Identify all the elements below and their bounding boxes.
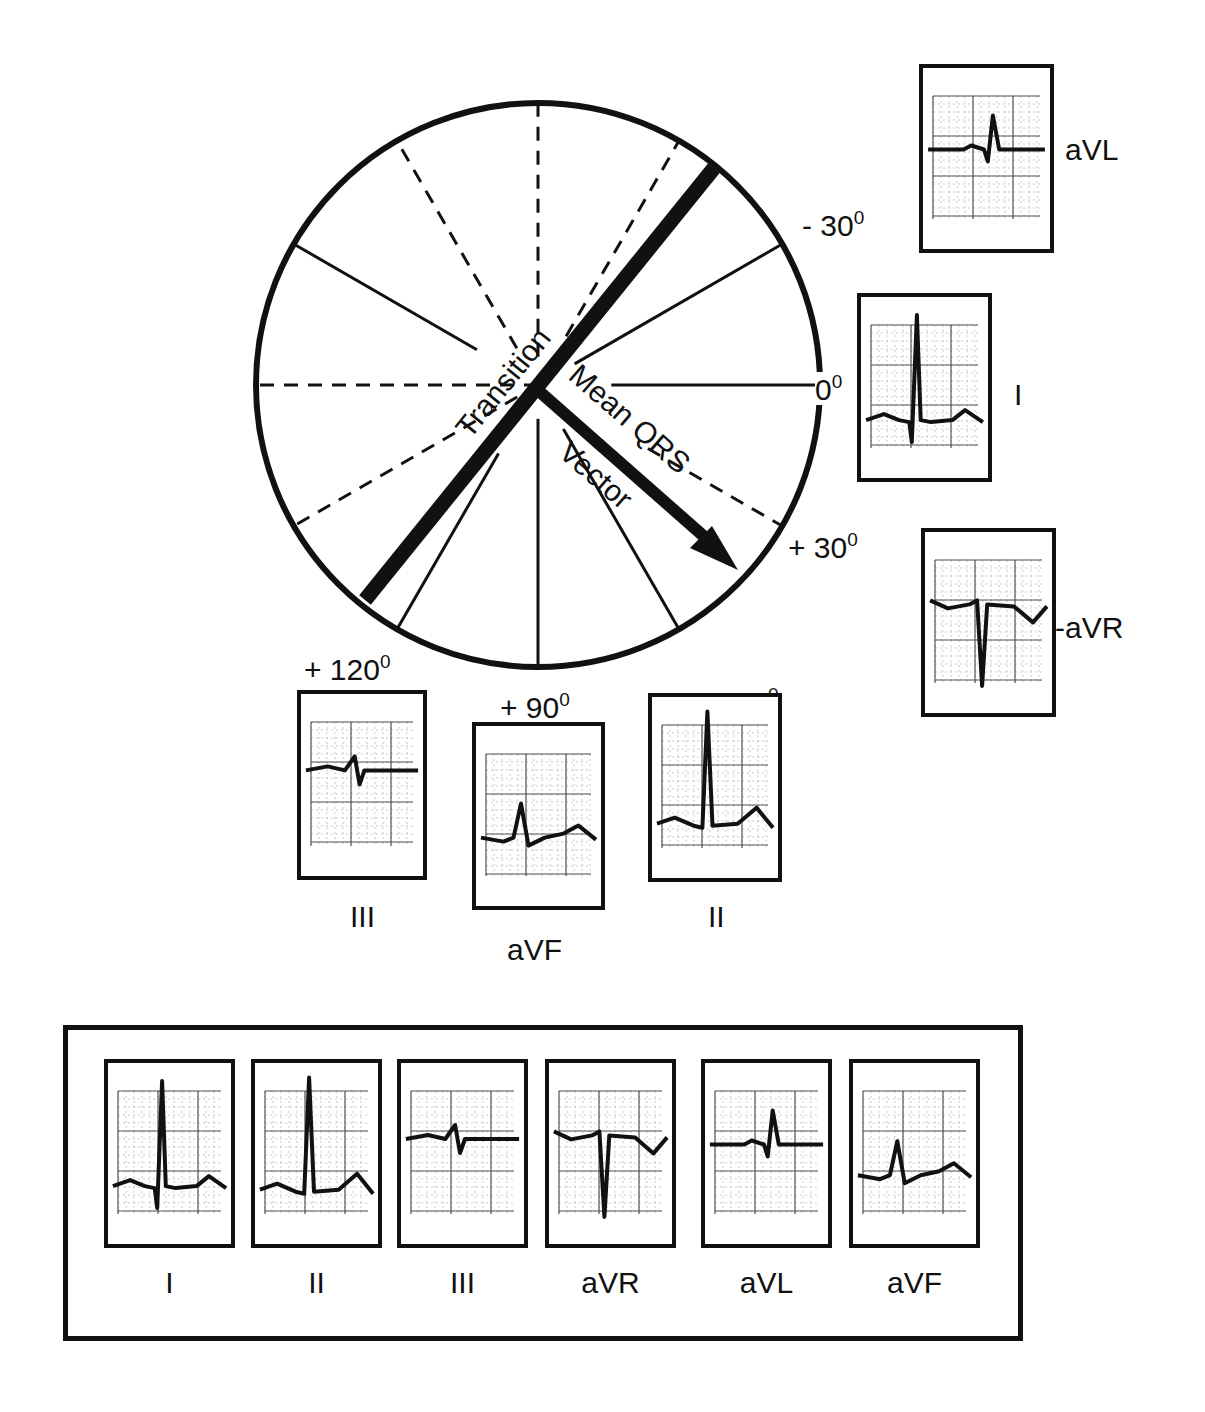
degree-symbol: 0 — [559, 689, 570, 710]
ecg-strip-neg-avr — [921, 528, 1056, 717]
degree-symbol: 0 — [380, 651, 391, 672]
panel-lead-label-avl: aVL — [701, 1268, 832, 1298]
ecg-waveform — [301, 694, 423, 876]
angle-sign: + — [304, 653, 330, 686]
ecg-strip-lead-i — [857, 293, 992, 482]
angle-label-plus30: + 300 — [788, 530, 858, 563]
degree-symbol: 0 — [847, 529, 858, 550]
ecg-waveform — [861, 297, 988, 478]
panel-lead-label-avr: aVR — [545, 1268, 676, 1298]
angle-sign: + — [500, 691, 526, 724]
ecg-waveform — [925, 532, 1052, 713]
lead-label-ii: II — [708, 902, 725, 932]
angle-value: 0 — [815, 373, 832, 406]
panel-ecg-strip-avf — [849, 1059, 980, 1248]
spoke-minus120-negative-pole — [397, 141, 517, 349]
panel-lead-label-iii: III — [397, 1268, 528, 1298]
panel-lead-label-ii: II — [251, 1268, 382, 1298]
ecg-waveform — [705, 1063, 828, 1244]
ecg-strip-avf — [472, 722, 605, 910]
degree-symbol: 0 — [854, 207, 865, 228]
lead-label-avl: aVL — [1065, 135, 1118, 165]
angle-label-plus90: + 900 — [500, 690, 570, 723]
ecg-waveform — [401, 1063, 524, 1244]
panel-ecg-strip-avl — [701, 1059, 832, 1248]
panel-lead-label-i: I — [104, 1268, 235, 1298]
lead-label-avf: aVF — [507, 935, 562, 965]
ecg-strip-lead-iii — [297, 690, 427, 880]
angle-value: 120 — [330, 653, 380, 686]
ecg-strip-lead-ii — [648, 693, 782, 882]
angle-label-zero: 00 — [815, 372, 842, 405]
panel-ecg-strip-i — [104, 1059, 235, 1248]
angle-label-minus30: - 300 — [802, 208, 864, 241]
panel-ecg-strip-iii — [397, 1059, 528, 1248]
angle-value: 90 — [526, 691, 559, 724]
lead-label-i: I — [1014, 380, 1022, 410]
panel-ecg-strip-ii — [251, 1059, 382, 1248]
ecg-waveform — [549, 1063, 672, 1244]
panel-ecg-strip-avr — [545, 1059, 676, 1248]
angle-value: 30 — [814, 531, 847, 564]
hexaxial-diagram: Transition Mean QRS Vector - 300 00 + 30… — [0, 0, 1205, 1412]
ecg-waveform — [108, 1063, 231, 1244]
lead-label-iii: III — [350, 902, 375, 932]
ecg-waveform — [923, 68, 1050, 249]
panel-lead-label-avf: aVF — [849, 1268, 980, 1298]
ecg-waveform — [255, 1063, 378, 1244]
angle-sign: + — [788, 531, 814, 564]
lead-label-neg-avr: -aVR — [1055, 613, 1123, 643]
angle-sign: - — [802, 209, 820, 242]
angle-value: 30 — [820, 209, 853, 242]
spoke-minus150-positive-pole — [294, 244, 477, 350]
ecg-strip-avl — [919, 64, 1054, 253]
ecg-waveform — [476, 726, 601, 906]
angle-label-plus120: + 1200 — [304, 652, 391, 685]
ecg-waveform — [853, 1063, 976, 1244]
degree-symbol: 0 — [832, 371, 843, 392]
ecg-waveform — [652, 697, 778, 878]
